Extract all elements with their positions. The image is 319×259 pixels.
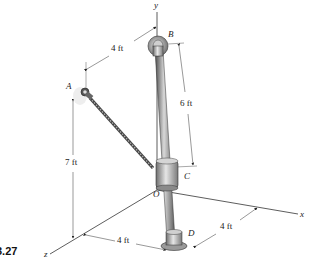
- point-D-label: D: [188, 229, 195, 238]
- dimension-top-label: 4 ft: [111, 44, 123, 53]
- x-axis-label: x: [300, 210, 304, 219]
- dimension-bottom-z-label: 4 ft: [117, 236, 129, 245]
- point-C-label: C: [184, 172, 190, 181]
- dimension-6ft-label: 6 ft: [180, 99, 192, 108]
- dimension-7ft-label: 7 ft: [65, 158, 77, 167]
- bracket-B: [148, 36, 168, 56]
- z-axis-label: z: [44, 250, 48, 259]
- cable-AC: [90, 98, 153, 168]
- figure-number: 3.27: [0, 246, 17, 257]
- point-A-label: A: [66, 82, 72, 91]
- rod-BD: [155, 50, 175, 240]
- y-axis-label: y: [154, 1, 158, 10]
- origin-label: O: [153, 190, 160, 199]
- point-B-label: B: [168, 30, 174, 39]
- dimension-top-4ft: [86, 27, 156, 92]
- collar-C: [156, 158, 178, 191]
- x-axis: [157, 190, 298, 214]
- base-D: [161, 230, 187, 251]
- z-axis: [50, 190, 157, 254]
- dimension-bottom-x-label: 4 ft: [220, 222, 232, 231]
- anchor-A: [73, 87, 93, 105]
